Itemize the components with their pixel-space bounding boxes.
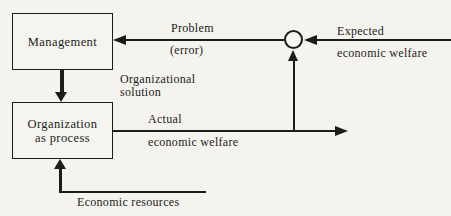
organization-node-label-line2: as process <box>35 131 90 145</box>
arrowhead-left-icon <box>304 35 317 45</box>
expected-welfare-label-line2: economic welfare <box>337 47 427 60</box>
organizational-solution-label: Organizational solution <box>120 73 195 99</box>
comparator-circle-icon <box>284 30 303 49</box>
arrowhead-up-icon <box>288 50 298 61</box>
arrowhead-left-icon <box>113 35 126 45</box>
organization-node: Organization as process <box>12 102 113 159</box>
resources-connector-line-vertical <box>59 168 62 193</box>
arrowhead-right-icon <box>335 126 348 136</box>
organization-node-label-line1: Organization <box>28 117 98 131</box>
problem-connector-line <box>125 39 284 41</box>
resources-connector-line <box>59 191 206 193</box>
economic-resources-label: Economic resources <box>77 196 179 209</box>
feedback-control-diagram: Management Organization as process Probl… <box>0 0 451 216</box>
feedback-connector-line <box>293 61 295 132</box>
arrowhead-down-icon <box>55 92 67 102</box>
management-to-organization-connector-line <box>60 70 64 94</box>
expected-welfare-label-line1: Expected <box>337 25 384 38</box>
error-label: (error) <box>170 44 203 57</box>
management-node-label: Management <box>28 35 97 49</box>
actual-welfare-label-line1: Actual <box>148 113 182 126</box>
actual-welfare-label-line2: economic welfare <box>148 136 238 149</box>
organizational-solution-label-line2: solution <box>120 86 195 99</box>
actual-connector-line <box>113 130 335 132</box>
expected-connector-line <box>317 39 451 41</box>
arrowhead-up-icon <box>54 159 66 169</box>
management-node: Management <box>12 13 113 70</box>
problem-label: Problem <box>171 22 214 35</box>
